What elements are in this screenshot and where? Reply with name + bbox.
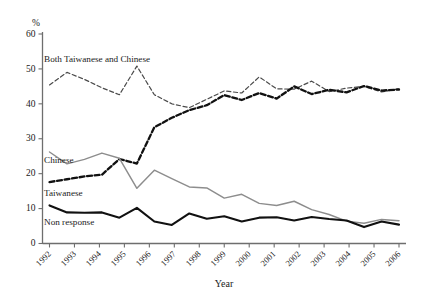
x-tick-label: 1993 <box>59 249 78 268</box>
series-line <box>50 86 400 182</box>
x-axis-title: Year <box>215 278 234 289</box>
x-tick-label: 1995 <box>109 249 128 268</box>
y-tick-label: 0 <box>31 238 36 248</box>
x-tick-label: 2000 <box>233 249 252 268</box>
x-tick-label: 1994 <box>84 248 104 268</box>
series-label: Chinese <box>44 155 74 165</box>
x-axis-tick-labels: 1992199319941995199619971998199920002001… <box>34 248 403 268</box>
data-series-group <box>50 66 400 227</box>
x-tick-label: 2004 <box>333 248 353 268</box>
series-inline-labels: Both Taiwanese and ChineseChineseTaiwane… <box>44 54 150 227</box>
x-tick-label: 2003 <box>308 249 327 268</box>
y-tick-label: 10 <box>26 203 36 213</box>
y-tick-label: 50 <box>26 64 36 74</box>
series-line <box>50 205 400 227</box>
x-tick-label: 1997 <box>159 248 179 268</box>
chart-container: 0102030405060 % 199219931994199519961997… <box>0 0 424 300</box>
x-tick-label: 2006 <box>383 248 403 268</box>
y-tick-label: 30 <box>26 133 36 143</box>
series-label: Taiwanese <box>44 188 83 198</box>
x-tick-label: 2001 <box>258 249 277 268</box>
y-tick-label: 60 <box>26 29 36 39</box>
y-tick-label: 40 <box>26 99 36 109</box>
y-axis-unit-label: % <box>32 18 40 28</box>
y-axis-tick-labels: 0102030405060 <box>26 29 36 249</box>
series-label: Non response <box>44 217 94 227</box>
x-tick-label: 2005 <box>358 249 377 268</box>
y-tick-label: 20 <box>26 168 36 178</box>
x-tick-label: 1996 <box>134 248 154 268</box>
series-line <box>50 66 400 108</box>
series-label: Both Taiwanese and Chinese <box>44 54 150 64</box>
x-tick-label: 1999 <box>208 249 227 268</box>
line-chart: 0102030405060 % 199219931994199519961997… <box>0 0 424 300</box>
x-tick-label: 1992 <box>34 249 53 268</box>
x-tick-label: 1998 <box>183 249 202 268</box>
x-tick-label: 2002 <box>283 249 302 268</box>
